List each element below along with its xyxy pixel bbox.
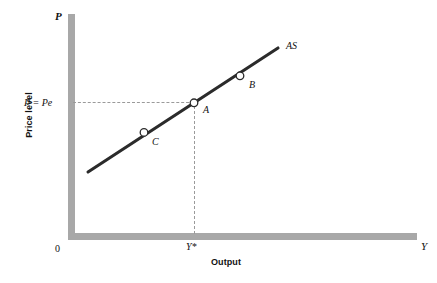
as-curve-group <box>0 0 437 283</box>
point-label-a: A <box>203 104 209 115</box>
as-curve-label: AS <box>286 40 297 51</box>
chart-canvas: P Y Price level Output 0 P = Pe Y* C A B… <box>0 0 437 283</box>
point-marker-b <box>236 72 244 80</box>
point-marker-c <box>140 129 148 137</box>
point-marker-a <box>190 99 198 107</box>
point-label-c: C <box>152 136 159 147</box>
as-curve-line <box>88 48 278 172</box>
point-label-b: B <box>249 79 255 90</box>
